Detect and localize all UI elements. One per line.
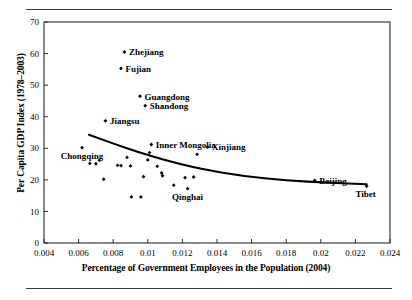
point-label: Xinjiang <box>212 142 246 152</box>
data-point <box>119 164 123 168</box>
data-point <box>123 50 127 54</box>
figure-container: Per Capita GDP Index (1978–2003) Percent… <box>0 0 412 300</box>
data-point <box>149 143 153 147</box>
data-point <box>129 195 133 199</box>
plot-frame <box>44 22 390 243</box>
data-point <box>161 174 165 178</box>
y-tick-label: 40 <box>30 112 40 122</box>
point-label: Tibet <box>355 189 375 199</box>
point-label: Shandong <box>150 101 189 111</box>
data-point <box>183 176 187 180</box>
data-point <box>186 187 190 191</box>
x-tick-label: 0.022 <box>345 248 365 258</box>
point-label: Fujian <box>125 64 151 74</box>
data-point <box>146 158 150 162</box>
data-point <box>195 152 199 156</box>
x-tick-label: 0.006 <box>68 248 89 258</box>
y-tick-label: 60 <box>30 49 40 59</box>
x-tick-label: 0.024 <box>380 248 401 258</box>
point-label: Beijing <box>319 176 347 186</box>
point-label: Qinghai <box>172 192 204 202</box>
data-point <box>142 175 146 179</box>
x-tick-label: 0.014 <box>207 248 228 258</box>
y-tick-label: 50 <box>30 80 40 90</box>
x-tick-label: 0.004 <box>34 248 55 258</box>
point-label: Chongqing <box>61 151 104 161</box>
y-tick-label: 0 <box>35 238 40 248</box>
data-point <box>104 119 108 123</box>
data-point <box>155 164 159 168</box>
data-point <box>102 177 106 181</box>
x-tick-label: 0.01 <box>140 248 156 258</box>
data-point <box>94 162 98 166</box>
data-point <box>138 94 142 98</box>
data-point <box>160 171 164 175</box>
y-tick-label: 20 <box>30 175 40 185</box>
point-label: Zhejiang <box>129 47 164 57</box>
y-tick-label: 70 <box>30 17 40 27</box>
point-label: Jiangsu <box>110 116 140 126</box>
scatter-plot: 0102030405060700.0040.0060.0080.010.0120… <box>0 0 412 300</box>
x-tick-label: 0.008 <box>103 248 124 258</box>
data-point <box>172 183 176 187</box>
data-point <box>129 164 133 168</box>
data-point <box>119 67 123 71</box>
data-point <box>88 162 92 166</box>
data-point <box>143 104 147 108</box>
data-point <box>125 156 129 160</box>
data-point <box>192 175 196 179</box>
data-point <box>139 195 143 199</box>
y-tick-label: 30 <box>30 143 40 153</box>
x-tick-label: 0.016 <box>241 248 262 258</box>
data-point <box>116 163 120 167</box>
x-tick-label: 0.018 <box>276 248 297 258</box>
x-tick-label: 0.02 <box>313 248 329 258</box>
data-point <box>80 146 84 150</box>
point-label: Inner Mongolia <box>156 140 217 150</box>
y-tick-label: 10 <box>30 207 40 217</box>
x-tick-label: 0.012 <box>172 248 192 258</box>
